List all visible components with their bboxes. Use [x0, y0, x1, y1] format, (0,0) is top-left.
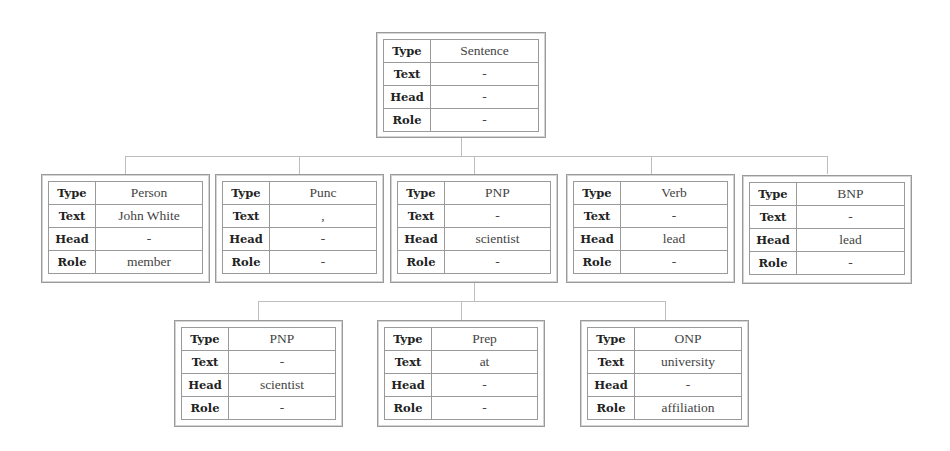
value-text: - [229, 351, 336, 374]
label-role: Role [574, 251, 621, 274]
connector-pnp [474, 156, 475, 174]
connector-root-stem [461, 138, 462, 156]
label-role: Role [398, 251, 445, 274]
node-sentence: TypeSentence Text- Head- Role- [376, 32, 546, 138]
value-head: - [96, 228, 203, 251]
label-type: Type [182, 328, 229, 351]
label-head: Head [223, 228, 270, 251]
value-role: member [96, 251, 203, 274]
connector-prep [461, 301, 462, 320]
value-head: - [432, 374, 538, 397]
value-role: - [229, 397, 336, 420]
node-person: TypePerson TextJohn White Head- Rolememb… [41, 174, 210, 283]
label-head: Head [385, 374, 432, 397]
label-head: Head [49, 228, 96, 251]
value-role: - [797, 252, 905, 275]
label-text: Text [223, 205, 270, 228]
label-head: Head [588, 374, 635, 397]
label-text: Text [49, 205, 96, 228]
label-role: Role [182, 397, 229, 420]
label-type: Type [385, 328, 432, 351]
value-text: - [431, 63, 539, 86]
label-role: Role [750, 252, 797, 275]
value-type: BNP [797, 183, 905, 206]
value-type: Person [96, 182, 203, 205]
value-head: lead [797, 229, 905, 252]
value-role: - [431, 109, 539, 132]
label-head: Head [574, 228, 621, 251]
node-bnp: TypeBNP Text- Headlead Role- [742, 175, 912, 284]
label-head: Head [384, 86, 431, 109]
value-head: lead [621, 228, 728, 251]
node-pnp: TypePNP Text- Headscientist Role- [390, 174, 558, 283]
connector-pnp-stem [474, 283, 475, 301]
node-punc: TypePunc Text, Head- Role- [215, 174, 384, 283]
value-head: scientist [229, 374, 336, 397]
label-role: Role [385, 397, 432, 420]
label-text: Text [574, 205, 621, 228]
label-head: Head [398, 228, 445, 251]
value-head: - [431, 86, 539, 109]
value-text: - [797, 206, 905, 229]
value-text: John White [96, 205, 203, 228]
connector-level1-bar [125, 156, 828, 157]
value-type: PNP [229, 328, 336, 351]
value-type: Punc [270, 182, 377, 205]
connector-verb [651, 156, 652, 174]
value-text: , [270, 205, 377, 228]
value-type: PNP [445, 182, 551, 205]
connector-bnp [827, 156, 828, 174]
value-type: Verb [621, 182, 728, 205]
value-text: at [432, 351, 538, 374]
label-head: Head [750, 229, 797, 252]
label-type: Type [574, 182, 621, 205]
value-head: - [635, 374, 742, 397]
label-role: Role [49, 251, 96, 274]
value-head: - [270, 228, 377, 251]
value-role: - [445, 251, 551, 274]
value-role: - [621, 251, 728, 274]
node-onp: TypeONP Textuniversity Head- Roleaffilia… [580, 320, 749, 427]
label-text: Text [750, 206, 797, 229]
value-role: affiliation [635, 397, 742, 420]
label-type: Type [223, 182, 270, 205]
value-text: university [635, 351, 742, 374]
label-type: Type [398, 182, 445, 205]
label-text: Text [398, 205, 445, 228]
label-type: Type [750, 183, 797, 206]
node-pnp-child: TypePNP Text- Headscientist Role- [174, 320, 343, 427]
label-type: Type [49, 182, 96, 205]
label-type: Type [588, 328, 635, 351]
value-type: Sentence [431, 40, 539, 63]
label-text: Text [182, 351, 229, 374]
value-head: scientist [445, 228, 551, 251]
value-role: - [270, 251, 377, 274]
value-text: - [445, 205, 551, 228]
node-prep: TypePrep Textat Head- Role- [377, 320, 545, 427]
label-role: Role [588, 397, 635, 420]
node-verb: TypeVerb Text- Headlead Role- [566, 174, 735, 283]
connector-onp [665, 301, 666, 320]
value-type: Prep [432, 328, 538, 351]
label-head: Head [182, 374, 229, 397]
label-role: Role [223, 251, 270, 274]
label-text: Text [385, 351, 432, 374]
connector-pnp2 [258, 301, 259, 320]
connector-person [125, 156, 126, 174]
value-role: - [432, 397, 538, 420]
label-type: Type [384, 40, 431, 63]
connector-punc [299, 156, 300, 174]
label-text: Text [384, 63, 431, 86]
label-role: Role [384, 109, 431, 132]
label-text: Text [588, 351, 635, 374]
value-type: ONP [635, 328, 742, 351]
value-text: - [621, 205, 728, 228]
